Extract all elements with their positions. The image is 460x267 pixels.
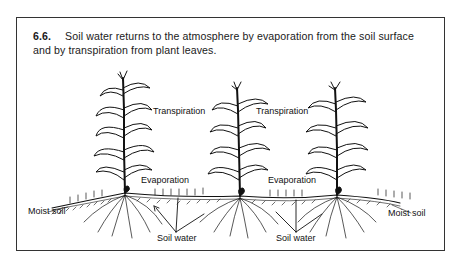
plant-middle	[208, 82, 270, 196]
label-evaporation-right: Evaporation	[268, 175, 316, 185]
label-transpiration-right: Transpiration	[256, 106, 308, 116]
label-transpiration-left: Transpiration	[153, 106, 205, 116]
label-soil-water-left: Soil water	[157, 233, 197, 243]
plant-illustration	[0, 0, 460, 267]
roots	[84, 195, 376, 238]
label-moist-soil-left: Moist soil	[28, 206, 66, 216]
label-evaporation-left: Evaporation	[141, 175, 189, 185]
label-soil-water-right: Soil water	[276, 233, 316, 243]
label-moist-soil-right: Moist soil	[388, 208, 426, 218]
